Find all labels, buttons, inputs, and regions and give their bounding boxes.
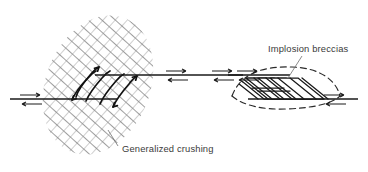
arrow-left [214, 78, 234, 82]
arrow-left [326, 102, 346, 106]
arrow-left [22, 102, 42, 106]
arrow-right [237, 69, 257, 73]
figure-canvas: Generalized crushing Implosion breccias [0, 0, 368, 172]
generalized-crushing-label: Generalized crushing [122, 143, 214, 154]
implosion-breccias-label: Implosion breccias [268, 43, 348, 54]
arrow-right [166, 69, 186, 73]
arrow-right [20, 93, 40, 97]
arrow-right [212, 69, 232, 73]
label-implosion-breccias: Implosion breccias [268, 43, 348, 78]
arrow-right [324, 93, 344, 97]
right-dilational-jog [228, 67, 358, 109]
implosion-breccia-blocks [234, 78, 328, 99]
arrow-left [168, 78, 188, 82]
structural-geology-figure: Generalized crushing Implosion breccias [0, 0, 368, 172]
